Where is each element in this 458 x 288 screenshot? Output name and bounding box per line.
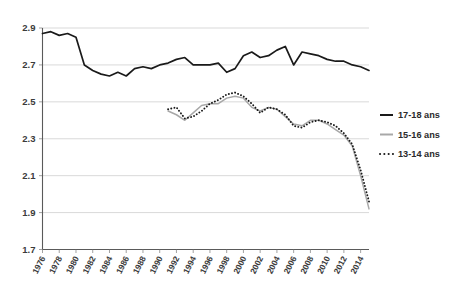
chart-container: 2.92.72.52.32.11.91.7 197619781980198219…: [0, 0, 458, 288]
line-chart: 2.92.72.52.32.11.91.7 197619781980198219…: [0, 0, 458, 288]
x-axis-tick-label: 1996: [198, 254, 216, 275]
legend: 17-18 ans15-16 ans13-14 ans: [380, 110, 440, 159]
y-axis-tick-label: 2.7: [22, 59, 35, 70]
x-axis-tick-label: 2002: [248, 254, 266, 275]
x-axis-tick-label: 2006: [281, 254, 299, 275]
x-axis-tick-labels: 1976197819801982198419861988199019921994…: [30, 254, 366, 275]
y-axis-tick-labels: 2.92.72.52.32.11.91.7: [22, 22, 36, 255]
x-axis-tick-label: 1998: [214, 254, 232, 275]
x-axis-tick-label: 1992: [164, 254, 182, 275]
x-axis-tick-label: 1988: [131, 254, 149, 275]
x-axis-tick-label: 1980: [64, 254, 82, 275]
y-axis-tick-label: 1.9: [22, 207, 35, 218]
x-axis-tick-label: 1984: [97, 254, 115, 275]
x-axis-tick-label: 1990: [147, 254, 165, 275]
y-axis-tick-label: 2.9: [22, 22, 35, 33]
series-group: [43, 32, 370, 209]
x-axis-tick-label: 2010: [315, 254, 333, 275]
x-axis-tick-label: 2008: [298, 254, 316, 275]
legend-label-1: 17-18 ans: [398, 110, 440, 120]
y-axis-tick-label: 2.1: [22, 170, 36, 181]
x-axis-tick-label: 2012: [331, 254, 349, 275]
x-axis-tick-label: 1976: [30, 254, 48, 275]
x-axis-tick-label: 1978: [47, 254, 65, 275]
x-axis-tick-label: 2014: [348, 254, 366, 275]
x-axis-tick-label: 2004: [265, 254, 283, 275]
gridlines-group: [39, 28, 369, 250]
y-axis-tick-label: 1.7: [22, 244, 35, 255]
legend-label-3: 13-14 ans: [398, 149, 440, 159]
x-axis-tick-label: 2000: [231, 254, 249, 275]
x-axis-tick-label: 1986: [114, 254, 132, 275]
y-axis-tick-label: 2.5: [22, 96, 36, 107]
x-axis-tick-label: 1994: [181, 254, 199, 275]
x-axis-tick-label: 1982: [80, 254, 98, 275]
series-line-1: [43, 32, 370, 76]
legend-label-2: 15-16 ans: [398, 130, 440, 140]
series-line-2: [168, 96, 369, 209]
y-axis-tick-label: 2.3: [22, 133, 35, 144]
